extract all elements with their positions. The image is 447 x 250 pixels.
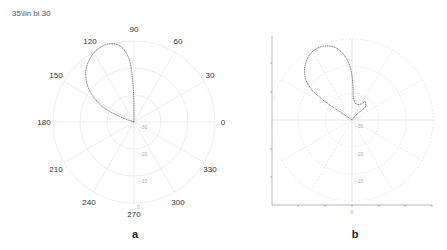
svg-text:300: 300 bbox=[171, 198, 185, 207]
svg-text:120: 120 bbox=[83, 37, 97, 46]
figure-canvas: 90 60 30 0 330 300 270 240 210 180 150 1… bbox=[0, 0, 447, 250]
svg-text:-20: -20 bbox=[140, 151, 147, 157]
svg-text:210: 210 bbox=[49, 165, 63, 174]
svg-text:60: 60 bbox=[174, 37, 183, 46]
panel-label-b: b bbox=[352, 228, 359, 240]
svg-text:150: 150 bbox=[49, 71, 63, 80]
polar-chart-b: -30 -20 -10 0 bbox=[270, 36, 433, 215]
svg-text:240: 240 bbox=[82, 198, 96, 207]
svg-text:330: 330 bbox=[203, 165, 217, 174]
svg-text:-20: -20 bbox=[356, 151, 363, 157]
panel-label-a: a bbox=[132, 228, 139, 240]
x-tick-zero: 0 bbox=[351, 209, 354, 215]
svg-text:-30: -30 bbox=[140, 124, 147, 130]
svg-text:0: 0 bbox=[221, 118, 226, 127]
svg-text:-10: -10 bbox=[356, 178, 363, 184]
svg-text:0: 0 bbox=[137, 204, 140, 210]
svg-text:-10: -10 bbox=[140, 178, 147, 184]
svg-text:270: 270 bbox=[127, 210, 141, 219]
polar-chart-a: 90 60 30 0 330 300 270 240 210 180 150 1… bbox=[37, 25, 225, 219]
svg-text:-30: -30 bbox=[356, 123, 363, 129]
svg-text:180: 180 bbox=[37, 118, 51, 127]
svg-text:30: 30 bbox=[206, 71, 215, 80]
radiation-pattern-b bbox=[305, 46, 367, 120]
svg-text:90: 90 bbox=[130, 25, 139, 34]
